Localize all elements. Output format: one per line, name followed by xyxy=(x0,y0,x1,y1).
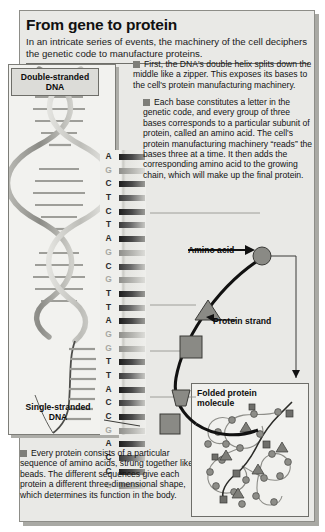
bullet-third-step: Every protein consists of a particular s… xyxy=(20,448,202,500)
page-deck: In an intricate series of events, the ma… xyxy=(26,36,309,59)
base-pair-bar xyxy=(119,332,145,338)
base-letter: C xyxy=(102,177,115,191)
label-double-stranded-dna-line1: Double-stranded xyxy=(21,72,89,82)
base-row: T xyxy=(100,191,146,205)
base-letter: A xyxy=(102,314,115,328)
base-pair-bar xyxy=(119,359,145,365)
base-row: C xyxy=(100,260,146,274)
base-row: G xyxy=(100,424,146,438)
base-pair-bar xyxy=(119,318,145,324)
base-letter: G xyxy=(102,246,115,260)
base-pair-bar xyxy=(119,441,145,447)
base-letter: T xyxy=(102,287,115,301)
base-row: T xyxy=(100,287,146,301)
base-row: C xyxy=(100,410,146,424)
bullet-square-icon xyxy=(133,61,140,68)
base-letter: T xyxy=(102,355,115,369)
base-pair-bar xyxy=(119,154,145,160)
base-pair-bar xyxy=(119,428,145,434)
base-row: G xyxy=(100,273,146,287)
label-double-stranded-dna: Double-stranded DNA xyxy=(11,68,99,96)
base-row: T xyxy=(100,301,146,315)
base-letter: G xyxy=(102,164,115,178)
base-pair-bar xyxy=(119,373,145,379)
base-letter: C xyxy=(102,260,115,274)
base-row: A xyxy=(100,232,146,246)
label-single-stranded-dna-line2: DNA xyxy=(49,412,68,422)
label-single-stranded-dna: Single-stranded DNA xyxy=(14,399,102,425)
base-row: A xyxy=(100,150,146,164)
bullet-first-step-text: First, the DNA's double helix splits dow… xyxy=(133,59,311,90)
base-letter: T xyxy=(102,369,115,383)
folded-protein-panel: Folded protein molecule xyxy=(191,383,309,517)
base-pair-bar xyxy=(119,305,145,311)
bullet-second-step: Each base constitutes a letter in the ge… xyxy=(143,97,315,180)
base-pair-bar xyxy=(119,291,145,297)
base-pair-bar xyxy=(119,195,145,201)
base-letter: C xyxy=(102,396,115,410)
base-pair-bar xyxy=(119,209,145,215)
header: From gene to protein In an intricate ser… xyxy=(26,16,309,64)
base-pair-bar xyxy=(119,250,145,256)
base-row: A xyxy=(100,383,146,397)
base-row: A xyxy=(100,314,146,328)
base-pair-bar xyxy=(119,222,145,228)
base-pair-bar xyxy=(119,236,145,242)
base-letter: T xyxy=(102,218,115,232)
base-row: G xyxy=(100,342,146,356)
base-letter: C xyxy=(102,410,115,424)
bullet-square-icon xyxy=(143,99,150,106)
ladder-rows: AGCTCTAGCGTTAGGTTACCGACCG xyxy=(100,150,146,492)
base-row: T xyxy=(100,355,146,369)
page-title: From gene to protein xyxy=(26,16,309,33)
base-letter: A xyxy=(102,383,115,397)
base-pair-bar xyxy=(119,168,145,174)
bullet-square-icon xyxy=(20,450,27,457)
base-letter: G xyxy=(102,342,115,356)
base-row: C xyxy=(100,177,146,191)
base-pair-bar xyxy=(119,400,145,406)
base-row: C xyxy=(100,205,146,219)
base-row: G xyxy=(100,246,146,260)
base-pair-bar xyxy=(119,387,145,393)
base-letter: T xyxy=(102,301,115,315)
base-pair-bar xyxy=(119,264,145,270)
label-folded-protein-line2: molecule xyxy=(197,398,234,408)
label-double-stranded-dna-line2: DNA xyxy=(46,82,65,92)
base-letter: T xyxy=(102,191,115,205)
base-pair-bar xyxy=(119,414,145,420)
base-letter: A xyxy=(102,232,115,246)
callout-protein-strand: Protein strand xyxy=(213,316,271,326)
bullet-first-step: First, the DNA's double helix splits dow… xyxy=(133,59,313,90)
base-row: T xyxy=(100,218,146,232)
base-row: C xyxy=(100,396,146,410)
label-folded-protein-molecule: Folded protein molecule xyxy=(197,388,277,408)
infographic-page: From gene to protein In an intricate ser… xyxy=(0,0,325,532)
bullet-second-step-text: Each base constitutes a letter in the ge… xyxy=(143,97,312,180)
dna-base-ladder: AGCTCTAGCGTTAGGTTACCGACCG xyxy=(100,150,146,435)
base-letter: C xyxy=(102,205,115,219)
base-pair-bar xyxy=(119,181,145,187)
base-row: G xyxy=(100,164,146,178)
base-letter: G xyxy=(102,424,115,438)
label-folded-protein-line1: Folded protein xyxy=(197,388,257,398)
callout-amino-acid: Amino acid xyxy=(188,245,234,255)
base-letter: G xyxy=(102,328,115,342)
label-single-stranded-dna-line1: Single-stranded xyxy=(26,402,91,412)
base-letter: A xyxy=(102,150,115,164)
base-row: G xyxy=(100,328,146,342)
bullet-third-step-text: Every protein consists of a particular s… xyxy=(20,448,193,500)
base-row: T xyxy=(100,369,146,383)
base-pair-bar xyxy=(119,277,145,283)
base-pair-bar xyxy=(119,346,145,352)
base-letter: G xyxy=(102,273,115,287)
